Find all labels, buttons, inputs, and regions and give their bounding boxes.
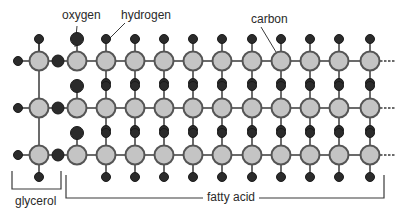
molecule-structure xyxy=(0,0,411,221)
hydrogen-atom xyxy=(160,82,169,91)
carbon-atom xyxy=(184,52,203,71)
carbon-atom xyxy=(243,99,262,118)
hydrogen-atom xyxy=(189,35,198,44)
hydrogen-atom xyxy=(131,173,140,182)
hydrogen-atom xyxy=(102,82,111,91)
carbon-atom xyxy=(30,52,49,71)
carbon-atom xyxy=(361,146,380,165)
hydrogen-atom xyxy=(131,82,140,91)
carbon-atom xyxy=(97,99,116,118)
hydrogen-atom xyxy=(35,35,44,44)
hydrogen-atom xyxy=(14,104,23,113)
carbon-atom xyxy=(30,146,49,165)
oxygen-atom xyxy=(71,127,84,140)
carbon-atom xyxy=(361,52,380,71)
carbon-atom xyxy=(184,99,203,118)
carbon-atom xyxy=(126,52,145,71)
hydrogen-atom xyxy=(366,129,375,138)
carbon-atom xyxy=(30,99,49,118)
hydrogen-atom xyxy=(35,173,44,182)
carbon-atom xyxy=(330,146,349,165)
oxygen-atom xyxy=(71,33,84,46)
hydrogen-atom xyxy=(366,35,375,44)
carbon-atom xyxy=(301,52,320,71)
carbon-atom xyxy=(301,146,320,165)
carbon-atom xyxy=(126,99,145,118)
label-fatty-acid: fatty acid xyxy=(203,190,259,204)
carbon-atom xyxy=(272,52,291,71)
hydrogen-atom xyxy=(306,129,315,138)
hydrogen-atom xyxy=(277,129,286,138)
carbon-atom xyxy=(301,99,320,118)
carbon-atom xyxy=(184,146,203,165)
carbon-atom xyxy=(126,146,145,165)
hydrogen-atom xyxy=(131,35,140,44)
hydrogen-atom xyxy=(306,35,315,44)
carbon-atom xyxy=(213,146,232,165)
carbon-atom xyxy=(97,146,116,165)
hydrogen-atom xyxy=(189,173,198,182)
carbon-atom xyxy=(68,146,87,165)
label-oxygen: oxygen xyxy=(62,8,101,22)
oxygen-atom xyxy=(52,102,64,114)
hydrogen-atom xyxy=(189,82,198,91)
hydrogen-atom xyxy=(306,173,315,182)
triglyceride-diagram: oxygen hydrogen carbon glycerol fatty ac… xyxy=(0,0,411,221)
hydrogen-atom xyxy=(160,173,169,182)
oxygen-atom xyxy=(52,55,64,67)
carbon-atom xyxy=(243,52,262,71)
hydrogen-atom xyxy=(102,35,111,44)
hydrogen-atom xyxy=(14,151,23,160)
carbon-atom xyxy=(97,52,116,71)
carbon-atom xyxy=(272,99,291,118)
carbon-atom xyxy=(155,99,174,118)
carbon-atom xyxy=(68,52,87,71)
label-hydrogen: hydrogen xyxy=(121,8,171,22)
hydrogen-atom xyxy=(131,129,140,138)
hydrogen-atom xyxy=(102,173,111,182)
hydrogen-atom xyxy=(335,173,344,182)
carbon-atom xyxy=(155,146,174,165)
hydrogen-atom xyxy=(218,82,227,91)
hydrogen-atom xyxy=(218,35,227,44)
carbon-atom xyxy=(68,99,87,118)
hydrogen-atom xyxy=(218,129,227,138)
carbon-atom xyxy=(272,146,291,165)
hydrogen-atom xyxy=(306,82,315,91)
hydrogen-atom xyxy=(366,173,375,182)
hydrogen-atom xyxy=(14,57,23,66)
hydrogen-atom xyxy=(366,82,375,91)
oxygen-atom xyxy=(52,149,64,161)
carbon-atom xyxy=(213,52,232,71)
carbon-atom xyxy=(243,146,262,165)
hydrogen-atom xyxy=(335,82,344,91)
carbon-atom xyxy=(330,52,349,71)
hydrogen-atom xyxy=(248,129,257,138)
label-carbon: carbon xyxy=(251,12,288,26)
hydrogen-atom xyxy=(189,129,198,138)
hydrogen-atom xyxy=(160,35,169,44)
hydrogen-atom xyxy=(248,173,257,182)
hydrogen-atom xyxy=(102,129,111,138)
carbon-atom xyxy=(213,99,232,118)
carbon-pointer-line xyxy=(261,27,276,52)
hydrogen-atom xyxy=(335,129,344,138)
carbon-atom xyxy=(155,52,174,71)
hydrogen-atom xyxy=(218,173,227,182)
hydrogen-atom xyxy=(248,82,257,91)
hydrogen-atom xyxy=(277,35,286,44)
hydrogen-atom xyxy=(248,35,257,44)
hydrogen-atom xyxy=(160,129,169,138)
carbon-atom xyxy=(361,99,380,118)
label-glycerol: glycerol xyxy=(15,194,56,208)
carbon-atom xyxy=(330,99,349,118)
hydrogen-atom xyxy=(277,82,286,91)
hydrogen-atom xyxy=(277,173,286,182)
hydrogen-atom xyxy=(335,35,344,44)
oxygen-atom xyxy=(71,80,84,93)
